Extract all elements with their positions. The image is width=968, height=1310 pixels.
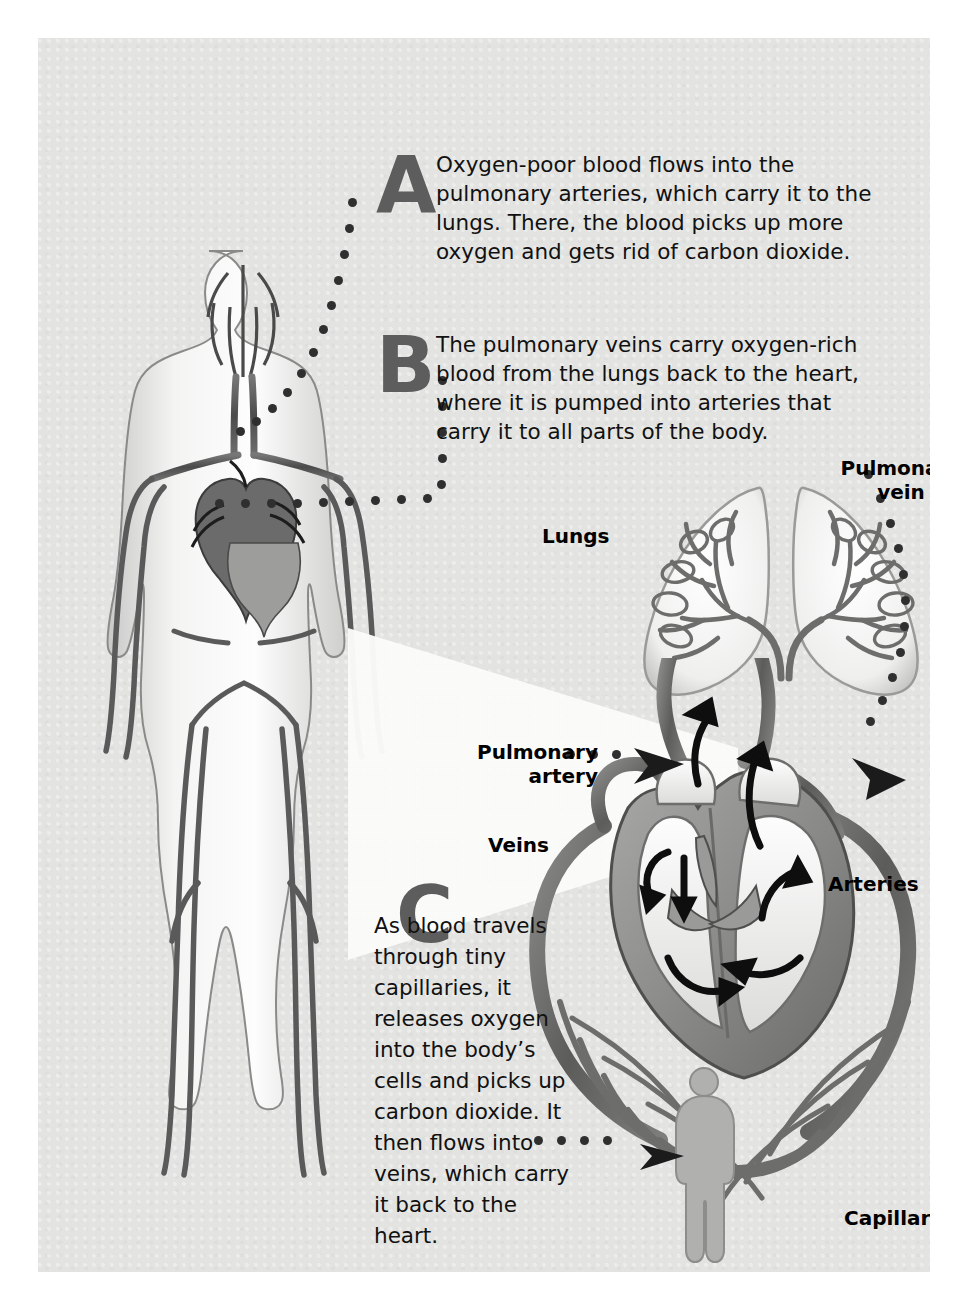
- label-veins: Veins: [488, 833, 549, 857]
- label-capillaries: Capillaries: [844, 1206, 930, 1230]
- illustration-page: A Oxygen-poor blood flows into the pulmo…: [0, 0, 968, 1310]
- label-pulmonary-vein-line2: vein: [836, 480, 930, 504]
- label-pulmonary-artery: Pulmonary artery: [456, 740, 598, 788]
- callout-letter-a: A: [376, 146, 435, 224]
- label-lungs: Lungs: [542, 524, 609, 548]
- pulmonary-vein-arrowhead: [850, 754, 910, 810]
- callout-text-a: Oxygen-poor blood flows into the pulmona…: [436, 150, 906, 266]
- label-arteries: Arteries: [828, 872, 919, 896]
- diagram-panel: A Oxygen-poor blood flows into the pulmo…: [38, 38, 930, 1272]
- label-pulmonary-artery-line2: artery: [456, 764, 598, 788]
- small-human-silhouette: [676, 1068, 734, 1262]
- label-pulmonary-vein: Pulmonary vein: [836, 456, 930, 504]
- label-pulmonary-vein-line1: Pulmonary: [836, 456, 930, 480]
- label-pulmonary-artery-line1: Pulmonary: [456, 740, 598, 764]
- callout-letter-b: B: [376, 326, 434, 404]
- callout-text-c: As blood travels through tiny capillarie…: [374, 910, 570, 1251]
- pulmonary-artery-arrowhead: [632, 744, 688, 788]
- callout-text-b: The pulmonary veins carry oxygen-rich bl…: [436, 330, 891, 446]
